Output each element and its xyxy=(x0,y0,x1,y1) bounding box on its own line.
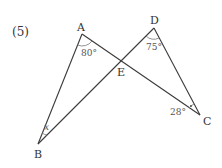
geometry-figure: (5) A B C D E 80° 75° 28° x xyxy=(0,0,222,168)
angle-arc-A xyxy=(78,41,93,46)
point-label-C: C xyxy=(203,115,211,128)
segment-DB xyxy=(38,28,154,144)
angle-label-B: x xyxy=(44,122,49,132)
point-label-A: A xyxy=(76,21,86,34)
segment-AC xyxy=(82,34,200,115)
angle-label-D: 75° xyxy=(146,42,162,52)
angle-label-C: 28° xyxy=(170,107,186,117)
point-label-B: B xyxy=(34,148,42,161)
point-label-D: D xyxy=(150,14,159,27)
problem-number: (5) xyxy=(12,25,29,39)
angle-label-A: 80° xyxy=(81,48,97,58)
angle-arc-D xyxy=(146,36,159,39)
angle-arc-B xyxy=(42,133,47,135)
point-label-E: E xyxy=(117,66,125,79)
angle-mark-dot-C xyxy=(190,105,192,107)
